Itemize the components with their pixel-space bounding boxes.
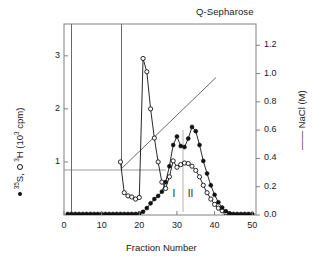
y-left-tick-label: 1 xyxy=(50,156,60,166)
y-axis-right-title: —— NaCl (M) xyxy=(296,90,307,150)
peak-label-ii: II xyxy=(185,188,195,199)
open-circle-legend-marker xyxy=(17,165,23,171)
y-left-unit-suffix: cpm) xyxy=(14,108,25,132)
x-tick-label: 0 xyxy=(58,220,70,230)
gradient-line-legend-marker: —— xyxy=(296,128,307,150)
x-tick-label: 40 xyxy=(209,220,221,230)
x-tick-label: 20 xyxy=(133,220,145,230)
x-axis-title: Fraction Number xyxy=(126,242,197,253)
y-right-tick-label: 1.2 xyxy=(264,39,277,49)
filled-circle-legend-marker xyxy=(18,192,22,196)
x-tick-label: 30 xyxy=(171,220,183,230)
y-left-unit-text: H (10 xyxy=(14,135,25,158)
hydrogen-mass-number: 3 xyxy=(13,158,20,162)
sulfur-mass-number: 35 xyxy=(13,182,20,189)
y-left-tick-label: 3 xyxy=(50,50,60,60)
y-axis-left-title: 35S, 3H (103 cpm) xyxy=(14,108,25,196)
y-left-exponent: 3 xyxy=(13,131,20,135)
x-tick-label: 50 xyxy=(246,220,258,230)
y-right-tick-label: 0.2 xyxy=(264,181,277,191)
y-left-tick-label: 2 xyxy=(50,103,60,113)
x-tick-label: 10 xyxy=(96,220,108,230)
peak-label-i: I xyxy=(169,188,179,199)
y-right-tick-label: 0.0 xyxy=(264,209,277,219)
y-right-tick-label: 0.4 xyxy=(264,152,277,162)
y-axis-right-title-text: NaCl (M) xyxy=(296,90,307,128)
y-right-tick-label: 1.0 xyxy=(264,68,277,78)
y-right-tick-label: 0.8 xyxy=(264,96,277,106)
y-right-tick-label: 0.6 xyxy=(264,124,277,134)
chart-title: Q-Sepharose xyxy=(196,6,254,17)
